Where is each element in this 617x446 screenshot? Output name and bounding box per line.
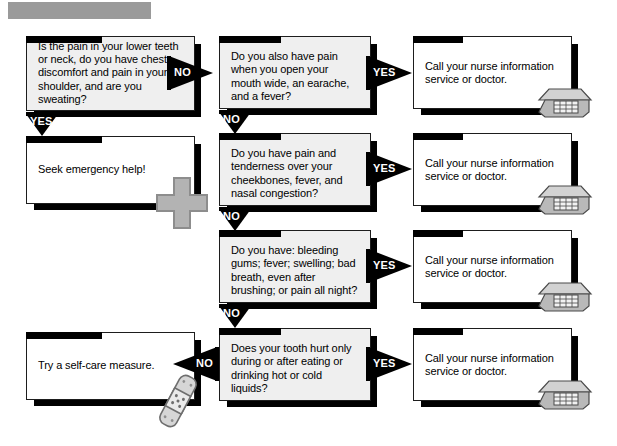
- box-cap: [413, 230, 463, 237]
- question-2-text: Do you also have pain when you open your…: [231, 50, 360, 104]
- connector-q4-yes: YES: [366, 249, 414, 283]
- box-cap: [26, 332, 102, 339]
- arrowhead-down-icon: [219, 306, 251, 328]
- connector-q1-yes: YES: [26, 112, 86, 138]
- box-cap: [413, 36, 463, 43]
- connector-q5-yes: YES: [366, 347, 414, 381]
- connector-q3-no: NO: [219, 207, 277, 233]
- connector-q1-no: NO: [167, 56, 215, 90]
- medical-cross-icon: [155, 176, 209, 230]
- bandage-icon: [152, 370, 204, 432]
- question-2-box[interactable]: Do you also have pain when you open your…: [219, 36, 371, 109]
- box-cap: [413, 328, 463, 335]
- question-4-box[interactable]: Do you have: bleeding gums; fever; swell…: [219, 230, 371, 303]
- arrowhead-right-icon: [368, 56, 412, 90]
- arrowhead-right-icon: [368, 152, 412, 186]
- telephone-icon: [535, 274, 593, 314]
- question-3-text: Do you have pain and tenderness over you…: [231, 147, 360, 201]
- title-bar: [8, 2, 151, 19]
- question-5-box[interactable]: Does your tooth hurt only during or afte…: [219, 328, 371, 401]
- connector-q2-no: NO: [219, 110, 277, 136]
- question-5-text: Does your tooth hurt only during or afte…: [231, 342, 360, 396]
- answer-emergency-text: Seek emergency help!: [38, 163, 184, 176]
- arrowhead-down-icon: [26, 114, 58, 136]
- question-4-text: Do you have: bleeding gums; fever; swell…: [231, 244, 360, 298]
- connector-q4-no: NO: [219, 304, 277, 330]
- connector-q3-yes: YES: [366, 152, 414, 186]
- box-cap: [413, 133, 463, 140]
- telephone-icon: [535, 177, 593, 217]
- arrowhead-down-icon: [219, 209, 251, 231]
- telephone-icon: [535, 80, 593, 120]
- question-1-text: Is the pain in your lower teeth or neck,…: [38, 40, 184, 107]
- connector-q2-yes: YES: [366, 56, 414, 90]
- box-shadow-bottom: [227, 401, 377, 407]
- arrowhead-right-icon: [368, 249, 412, 283]
- box-cap: [219, 36, 281, 43]
- arrowhead-down-icon: [219, 112, 251, 134]
- telephone-icon: [535, 372, 593, 412]
- question-3-box[interactable]: Do you have pain and tenderness over you…: [219, 133, 371, 206]
- arrowhead-right-icon: [169, 56, 213, 90]
- arrowhead-right-icon: [368, 347, 412, 381]
